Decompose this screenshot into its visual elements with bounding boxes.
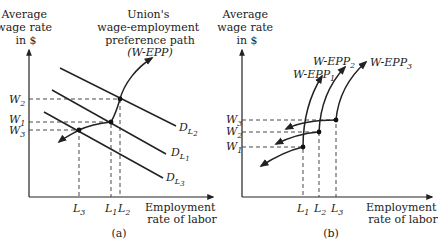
panel-b-x-axis-label: Employment rate of labor: [366, 201, 440, 226]
wepp-abbrev: (W-EPP): [127, 46, 173, 59]
label-wepp3: W-EPP3: [370, 56, 412, 71]
wepp-lower-arrow: [59, 130, 79, 142]
wepp1-curve: [303, 76, 322, 147]
guide-w2-l2: [29, 99, 120, 197]
point-w1-l1: [301, 145, 306, 150]
tick-l3: L3: [72, 202, 85, 217]
guide-w1-l1: [242, 147, 303, 197]
tick-l3: L3: [330, 202, 343, 217]
label-dl3: DL3: [165, 171, 185, 188]
tick-l1: L1: [104, 202, 117, 217]
panel-a-caption: (a): [111, 227, 126, 240]
panel-a-x-axis-label: Employment rate of labor: [145, 201, 219, 226]
wepp3-lower-arrow: [286, 120, 336, 129]
panel-b-caption: (b): [323, 227, 339, 240]
panel-a: Average wage rate in $ Union's wage-empl…: [0, 8, 219, 240]
tick-l2: L2: [313, 202, 326, 217]
tick-l1: L1: [296, 202, 309, 217]
panel-b: Average wage rate in $ W3 W2 W1 L1 L2 L3: [217, 8, 440, 240]
tick-w1: W1: [226, 140, 242, 155]
label-wepp2: W-EPP2: [313, 55, 355, 70]
point-w2-l2: [317, 130, 322, 135]
wepp1-lower-arrow: [261, 147, 303, 166]
point-w3-l3: [77, 128, 82, 133]
tick-w2: W2: [9, 93, 25, 108]
wepp2-lower-arrow: [276, 132, 319, 144]
demand-curve-dl2: [60, 68, 176, 126]
wepp-curve: [79, 58, 152, 130]
wepp3-curve: [336, 62, 366, 120]
demand-curve-dl3: [44, 112, 163, 178]
label-wepp1: W-EPP1: [293, 68, 335, 83]
label-dl2: DL2: [178, 121, 198, 138]
wage-employment-diagram: Average wage rate in $ Union's wage-empl…: [0, 0, 443, 249]
point-w2-l2: [118, 97, 123, 102]
point-w1-l1: [109, 120, 114, 125]
panel-b-y-axis-label: Average wage rate in $: [217, 8, 276, 47]
tick-l2: L2: [117, 202, 130, 217]
guide-w3-l3: [29, 130, 79, 197]
point-w3-l3: [334, 118, 339, 123]
wepp-title: Union's wage-employment preference path: [97, 8, 203, 47]
label-dl1: DL1: [170, 146, 190, 163]
panel-a-y-axis-label: Average wage rate in $: [0, 8, 56, 47]
guide-w1-l1: [29, 122, 111, 197]
